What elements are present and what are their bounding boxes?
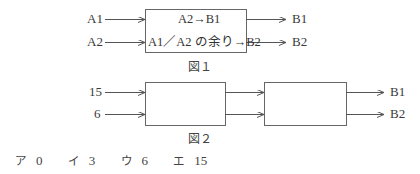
figure2-box-2 <box>265 83 347 126</box>
figure2-caption: 図２ <box>188 132 212 146</box>
choice-value-e: 15 <box>194 154 207 168</box>
figure2-input-1: 15 <box>89 85 102 99</box>
diagram-lines <box>0 0 420 174</box>
figure1-input-a1: A1 <box>87 12 103 26</box>
answer-choices: ア0 イ3 ウ6 エ15 <box>15 154 229 168</box>
figure1-box-line-1: A2→B1 <box>178 12 220 26</box>
choice-value-u: 6 <box>142 154 149 168</box>
figure2-output-b2: B2 <box>390 107 405 121</box>
choice-mark-i: イ <box>68 154 79 168</box>
choice-mark-a: ア <box>15 154 26 168</box>
figure1-caption: 図１ <box>188 60 212 74</box>
figure1-output-b1: B1 <box>292 12 307 26</box>
figure2-output-b1: B1 <box>390 85 405 99</box>
figure1-input-a2: A2 <box>87 35 103 49</box>
figure2-input-2: 6 <box>94 107 101 121</box>
figure2-box-1 <box>146 83 226 126</box>
choice-value-i: 3 <box>89 154 96 168</box>
choice-mark-u: ウ <box>121 154 132 168</box>
choice-value-a: 0 <box>36 154 43 168</box>
choice-mark-e: エ <box>173 154 184 168</box>
figure1-box-line-2: A1／A2 の余り→B2 <box>148 35 261 49</box>
figure1-output-b2: B2 <box>292 35 307 49</box>
